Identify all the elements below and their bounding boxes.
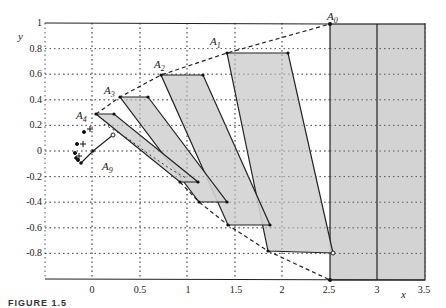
svg-text:-0.4: -0.4 [26,196,42,207]
scatter-points [74,126,94,162]
svg-text:1: 1 [186,284,191,295]
svg-text:0: 0 [90,284,95,295]
svg-text:1.5: 1.5 [230,284,243,295]
label-a0: A0 [326,10,338,25]
svg-text:0.8: 0.8 [30,43,43,54]
x-axis-label: x [400,288,406,300]
svg-text:0.5: 0.5 [134,284,147,295]
y-axis-label: y [17,30,23,42]
svg-text:2.5: 2.5 [323,284,336,295]
svg-text:0.6: 0.6 [30,68,43,79]
reachable-sets-figure: 1 0.8 0.6 0.4 0.2 0 -0.2 -0.4 -0.6 -0.8 … [0,0,446,308]
figure-caption: FIGURE 1.5 [8,298,67,308]
y-tick-labels: 1 0.8 0.6 0.4 0.2 0 -0.2 -0.4 -0.6 -0.8 [26,17,42,258]
svg-text:0: 0 [37,145,42,156]
svg-text:1: 1 [37,17,42,28]
svg-text:3.5: 3.5 [418,284,431,295]
label-a9: A9 [101,160,113,175]
svg-text:-0.2: -0.2 [26,171,42,182]
label-a4: A4 [75,109,87,124]
set-a9 [79,133,115,165]
svg-text:3: 3 [375,284,380,295]
set-a0 [330,24,425,280]
svg-text:-0.6: -0.6 [26,222,42,233]
svg-text:0.2: 0.2 [30,119,43,130]
svg-text:-0.8: -0.8 [26,247,42,258]
label-a3: A3 [103,84,115,99]
svg-text:2: 2 [280,284,285,295]
label-a2: A2 [153,58,165,73]
svg-text:0.4: 0.4 [30,94,43,105]
x-tick-labels: 0 0.5 1 1.5 2 2.5 3 3.5 [90,284,431,295]
label-a1: A1 [209,35,221,50]
